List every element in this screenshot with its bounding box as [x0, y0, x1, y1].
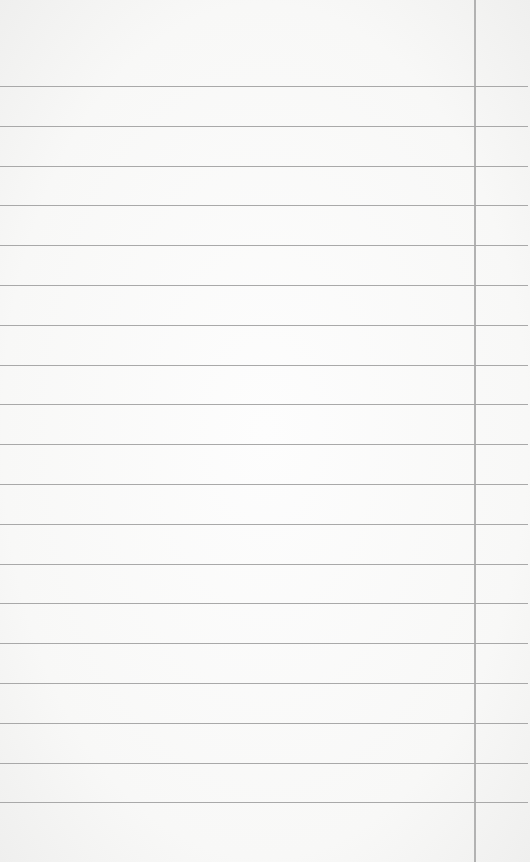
horizontal-rule-line	[0, 524, 528, 525]
horizontal-rule-line	[0, 365, 528, 366]
horizontal-rule-line	[0, 245, 528, 246]
horizontal-rule-line	[0, 205, 528, 206]
horizontal-rule-line	[0, 643, 528, 644]
horizontal-rule-line	[0, 802, 528, 803]
horizontal-rule-line	[0, 126, 528, 127]
horizontal-rule-line	[0, 484, 528, 485]
vertical-margin-line	[474, 0, 476, 862]
horizontal-rule-line	[0, 444, 528, 445]
horizontal-rule-line	[0, 723, 528, 724]
horizontal-rule-line	[0, 603, 528, 604]
horizontal-rule-line	[0, 404, 528, 405]
horizontal-rule-line	[0, 86, 528, 87]
horizontal-rule-line	[0, 285, 528, 286]
horizontal-rule-line	[0, 763, 528, 764]
horizontal-rule-line	[0, 325, 528, 326]
horizontal-rule-line	[0, 166, 528, 167]
horizontal-rule-line	[0, 683, 528, 684]
lined-paper	[0, 0, 530, 862]
horizontal-rule-line	[0, 564, 528, 565]
